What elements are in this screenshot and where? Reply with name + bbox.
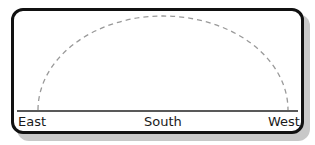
sun-arc-path	[38, 16, 288, 110]
label-west: West	[268, 114, 300, 130]
label-south: South	[144, 114, 182, 130]
label-east: East	[18, 114, 46, 130]
